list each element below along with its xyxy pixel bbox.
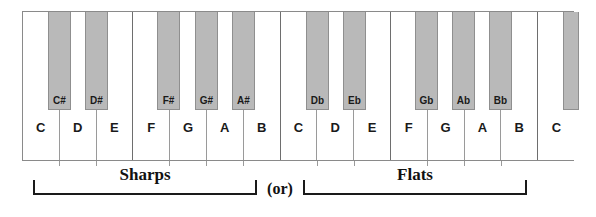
black-key[interactable]: Bb [489, 12, 512, 110]
black-key[interactable]: Eb [343, 12, 366, 110]
sharps-label: Sharps [35, 166, 255, 183]
piano-keyboard: C D E F G A B C D E F G A B C C# D# [22, 11, 574, 161]
white-key-label: C [23, 120, 59, 135]
black-key-label: G# [194, 95, 219, 106]
flats-label: Flats [305, 166, 525, 183]
white-key-label: E [354, 120, 390, 135]
black-key[interactable]: Gb [415, 12, 438, 110]
black-key[interactable]: Db [306, 12, 329, 110]
black-key-label: Eb [342, 95, 367, 106]
black-key[interactable]: G# [195, 12, 218, 110]
white-key-label: D [317, 120, 353, 135]
white-key-label: F [133, 120, 169, 135]
white-key-label: B [244, 120, 280, 135]
white-key-label: A [465, 120, 501, 135]
sharps-bracket: Sharps [33, 180, 257, 195]
black-key[interactable]: C# [48, 12, 71, 110]
black-key-label: Db [305, 95, 330, 106]
black-key-label: Ab [451, 95, 476, 106]
or-label: (or) [258, 180, 302, 198]
black-key[interactable]: A# [232, 12, 255, 110]
black-key-partial[interactable] [563, 12, 579, 110]
black-key[interactable]: F# [157, 12, 180, 110]
black-key-label: Gb [414, 95, 439, 106]
white-key-label: C [538, 120, 575, 135]
white-key-label: A [207, 120, 243, 135]
black-key-label: D# [84, 95, 109, 106]
black-key-label: C# [47, 95, 72, 106]
white-key-label: B [501, 120, 537, 135]
white-key-label: E [97, 120, 133, 135]
flats-bracket: Flats [303, 180, 527, 195]
white-key-label: G [428, 120, 464, 135]
white-key-label: F [391, 120, 427, 135]
black-key[interactable]: D# [85, 12, 108, 110]
white-key-label: D [60, 120, 96, 135]
black-key-label: Bb [488, 95, 513, 106]
black-key-label: A# [231, 95, 256, 106]
white-key-label: C [281, 120, 317, 135]
white-key-label: G [170, 120, 206, 135]
black-key[interactable]: Ab [452, 12, 475, 110]
black-key-label: F# [156, 95, 181, 106]
